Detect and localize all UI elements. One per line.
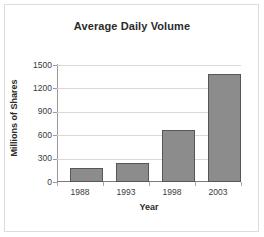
chart-container: Average Daily Volume 1500 1200 900 600 3… [0,0,264,237]
x-tick-mark-3 [195,182,196,186]
bar-1998[interactable] [162,130,195,182]
x-tick-mark-2 [149,182,150,186]
y-tick-label-0: 0 [18,178,52,187]
gridline-1500 [57,65,241,66]
y-tick-label-600: 600 [18,131,52,140]
bar-1993[interactable] [116,163,149,183]
x-tick-label-2003: 2003 [195,187,241,197]
x-tick-mark-0 [57,182,58,186]
bar-2003[interactable] [208,74,241,182]
x-tick-mark-4 [241,182,242,186]
y-tick-label-1200: 1200 [18,84,52,93]
x-tick-label-1988: 1988 [57,187,103,197]
y-tick-label-900: 900 [18,107,52,116]
plot-area [57,65,241,182]
x-tick-mark-1 [103,182,104,186]
y-tick-label-300: 300 [18,154,52,163]
y-tick-label-1500: 1500 [18,61,52,70]
x-tick-label-1998: 1998 [149,187,195,197]
y-axis-title: Millions of Shares [9,63,19,173]
x-tick-label-1993: 1993 [103,187,149,197]
y-axis-tick-labels: 1500 1200 900 600 300 0 [14,0,52,237]
x-axis-title: Year [57,202,241,212]
bar-1988[interactable] [70,168,103,182]
